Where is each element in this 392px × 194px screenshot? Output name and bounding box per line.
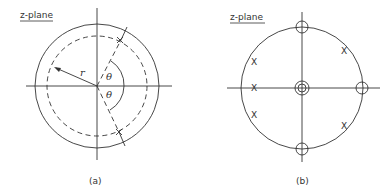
caption-b: (b) xyxy=(296,176,309,186)
angle-label-upper: θ xyxy=(106,71,112,82)
radius-line xyxy=(56,68,97,86)
pole-upper-right: X xyxy=(341,46,347,56)
panel-a: z-plane r θ θ (a) xyxy=(20,8,172,186)
caption-a: (a) xyxy=(89,176,102,186)
pole-left-axis: X xyxy=(251,83,257,93)
radius-arrowhead-icon xyxy=(54,67,61,72)
radius-label: r xyxy=(80,67,86,78)
z-plane-label-a: z-plane xyxy=(20,10,53,20)
pole-upper-left: X xyxy=(251,57,257,67)
angle-arc-upper xyxy=(111,61,124,86)
pole-lower-left: X xyxy=(251,110,257,120)
panel-b: z-plane X X X X X (b) xyxy=(227,12,380,186)
z-plane-label-b: z-plane xyxy=(230,12,263,22)
pole-lower-right: X xyxy=(341,121,347,131)
z-plane-diagrams: z-plane r θ θ (a) z-pl xyxy=(0,0,392,194)
pole-marker-lower-icon xyxy=(116,129,122,135)
angle-arc-lower xyxy=(110,86,124,110)
angle-label-lower: θ xyxy=(106,89,112,100)
